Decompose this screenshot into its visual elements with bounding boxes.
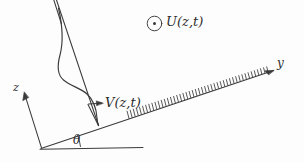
hatch-tick bbox=[220, 82, 222, 88]
figure-line-work bbox=[23, 0, 274, 149]
hatch-tick bbox=[257, 70, 258, 75]
hatch-tick bbox=[158, 101, 160, 108]
y-axis-arrowhead bbox=[265, 70, 274, 74]
hatch-tick bbox=[189, 91, 191, 97]
hatching-icon bbox=[127, 67, 268, 119]
z-axis-line bbox=[25, 94, 42, 148]
hatch-tick bbox=[251, 72, 252, 77]
hatch-tick bbox=[161, 100, 163, 107]
hatch-tick bbox=[167, 98, 169, 105]
hatch-tick bbox=[192, 90, 194, 96]
out-of-plane-velocity-label: U(z,t) bbox=[166, 15, 203, 28]
hatch-tick bbox=[208, 86, 210, 92]
hatch-tick bbox=[174, 96, 176, 103]
hatch-tick bbox=[214, 84, 216, 90]
hatch-tick bbox=[146, 105, 148, 112]
horizontal-datum-line bbox=[40, 148, 143, 150]
hatch-tick bbox=[226, 80, 227, 86]
hatch-tick bbox=[183, 93, 185, 99]
hatch-tick bbox=[133, 109, 135, 116]
hatch-tick bbox=[130, 110, 132, 117]
hatch-tick bbox=[245, 74, 246, 79]
hatch-tick bbox=[242, 75, 243, 80]
hatch-tick bbox=[229, 79, 230, 85]
hatch-tick bbox=[248, 73, 249, 78]
hatch-tick bbox=[239, 76, 240, 81]
profile-reference-line bbox=[57, 0, 99, 126]
hatch-tick bbox=[202, 87, 204, 93]
hatch-tick bbox=[186, 92, 188, 98]
hatch-tick bbox=[180, 94, 182, 101]
hatch-tick bbox=[198, 88, 200, 94]
y-axis-label: y bbox=[277, 57, 284, 69]
hatch-tick bbox=[217, 83, 219, 89]
z-axis-label: z bbox=[13, 82, 19, 93]
velocity-profile-label: V(z,t) bbox=[105, 96, 141, 109]
velocity-arrow-head bbox=[96, 101, 103, 106]
hatch-tick bbox=[205, 86, 207, 92]
figure-canvas: z y θ V(z,t) U(z,t) bbox=[0, 0, 304, 162]
hatch-tick bbox=[236, 77, 237, 83]
hatch-tick bbox=[143, 106, 145, 113]
hatch-tick bbox=[233, 78, 234, 84]
hatch-tick bbox=[164, 99, 166, 106]
hatch-tick bbox=[260, 69, 261, 74]
hatch-tick bbox=[152, 103, 154, 110]
z-axis-arrowhead bbox=[23, 92, 29, 100]
hatch-tick bbox=[149, 104, 151, 111]
circled-dot-icon-center bbox=[153, 22, 156, 25]
theta-angle-label: θ bbox=[73, 134, 80, 146]
hatch-tick bbox=[223, 81, 225, 87]
hatch-tick bbox=[177, 95, 179, 102]
hatch-tick bbox=[211, 85, 213, 91]
hatch-tick bbox=[171, 97, 173, 104]
hatch-tick bbox=[155, 102, 157, 109]
hatch-tick bbox=[195, 89, 197, 95]
hatch-tick bbox=[254, 71, 255, 76]
hatch-tick bbox=[264, 68, 265, 73]
figure-vector-layer bbox=[0, 0, 304, 162]
hatch-tick bbox=[127, 111, 129, 118]
